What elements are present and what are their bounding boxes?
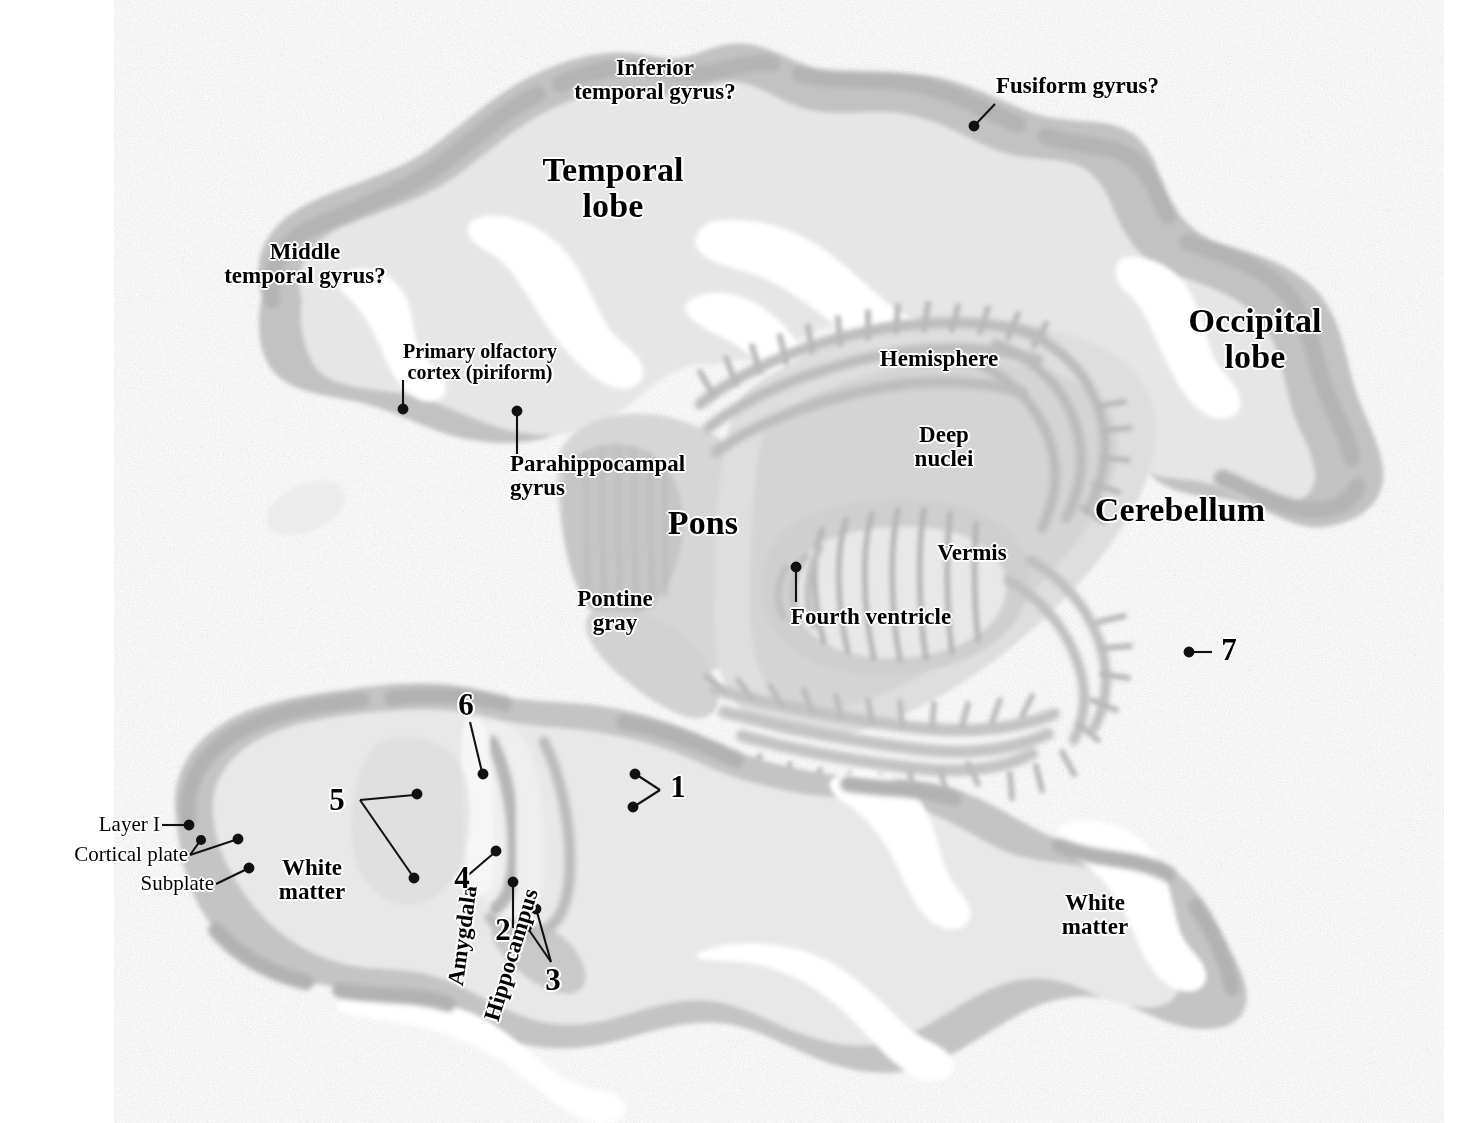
cerebellum-region (700, 304, 1156, 798)
figure-plate: Inferior temporal gyrus? Fusiform gyrus?… (0, 0, 1477, 1123)
brain-section-image (0, 0, 1477, 1123)
lower-temporal-slab (175, 683, 1247, 1122)
tissue-fragment (258, 469, 354, 547)
